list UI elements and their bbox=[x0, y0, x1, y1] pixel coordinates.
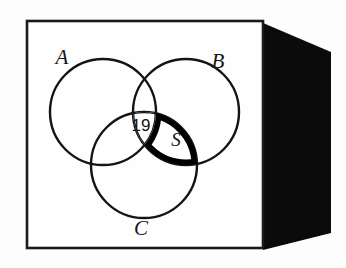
set-label-b: B bbox=[212, 49, 225, 73]
region-count-triple: 19 bbox=[132, 116, 151, 135]
region-label-s: S bbox=[171, 129, 181, 150]
set-label-a: A bbox=[54, 45, 69, 69]
venn-diagram-figure: A B C 19 S bbox=[0, 0, 346, 268]
figure-canvas: A B C 19 S bbox=[0, 0, 346, 268]
set-label-c: C bbox=[134, 216, 149, 240]
